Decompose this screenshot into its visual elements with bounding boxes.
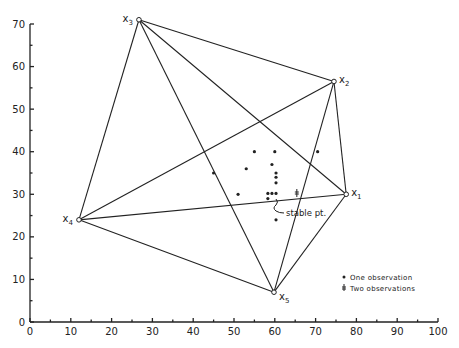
vertex-marker-x2 <box>332 79 337 84</box>
observation-dot <box>274 181 277 184</box>
observation-dot <box>274 176 277 179</box>
vertex-markers: x1x2x3x4x5 <box>63 13 362 305</box>
polygon-edge <box>139 20 334 82</box>
x-tick-label: 60 <box>268 326 281 337</box>
polygon-edge <box>274 81 334 292</box>
observation-dot <box>316 150 319 153</box>
double-observation-marker <box>295 189 299 197</box>
vertex-label-x3: x3 <box>123 13 133 27</box>
polygon-edge <box>334 81 346 194</box>
x-tick-label: 80 <box>350 326 363 337</box>
polygon-edge <box>139 20 346 195</box>
observation-dot <box>273 150 276 153</box>
observation-dot <box>266 197 269 200</box>
x-tick-label: 100 <box>428 326 447 337</box>
y-tick-label: 40 <box>12 146 25 157</box>
vertex-label-x1: x1 <box>351 187 361 201</box>
vertex-label-x4: x4 <box>63 213 74 227</box>
x-tick-label: 0 <box>27 326 33 337</box>
polygon-edge <box>79 220 274 292</box>
vertex-label-x2: x2 <box>339 74 349 88</box>
observation-dot <box>266 192 269 195</box>
y-tick-label: 50 <box>12 104 25 115</box>
vertex-marker-x5 <box>272 290 277 295</box>
vertex-marker-x4 <box>77 218 82 223</box>
y-tick-label: 60 <box>12 61 25 72</box>
legend-dot-icon <box>343 276 346 279</box>
polygon-edge <box>139 20 274 292</box>
annotation-label: stable pt. <box>286 208 326 218</box>
observation-dot <box>274 171 277 174</box>
polygon-edges <box>79 20 346 292</box>
y-tick-label: 30 <box>12 189 25 200</box>
x-tick-label: 40 <box>187 326 200 337</box>
legend-double-tick-icon <box>342 284 346 291</box>
observation-dot <box>245 167 248 170</box>
x-tick-label: 10 <box>64 326 77 337</box>
x-tick-label: 90 <box>391 326 404 337</box>
observation-dot <box>253 150 256 153</box>
observation-dot <box>212 171 215 174</box>
vertex-label-x5: x5 <box>279 291 289 305</box>
y-tick-label: 0 <box>19 317 25 328</box>
observation-dot <box>274 218 277 221</box>
x-tick-label: 70 <box>309 326 322 337</box>
y-tick-label: 70 <box>12 19 25 30</box>
x-tick-label: 20 <box>105 326 118 337</box>
scatter-chart: 0102030405060708090100010203040506070 x1… <box>0 0 459 348</box>
vertex-marker-x1 <box>344 192 349 197</box>
y-tick-label: 10 <box>12 274 25 285</box>
x-tick-label: 50 <box>228 326 241 337</box>
legend-one-label: One observation <box>350 274 412 282</box>
observation-dot <box>236 193 239 196</box>
vertex-marker-x3 <box>137 17 142 22</box>
polygon-edge <box>79 20 139 220</box>
observation-dot <box>270 192 273 195</box>
observation-dot <box>274 192 277 195</box>
x-tick-label: 30 <box>146 326 159 337</box>
y-tick-label: 20 <box>12 231 25 242</box>
observation-dot <box>270 163 273 166</box>
legend-two-label: Two observations <box>349 285 415 293</box>
legend: One observation Two observations <box>342 274 415 293</box>
